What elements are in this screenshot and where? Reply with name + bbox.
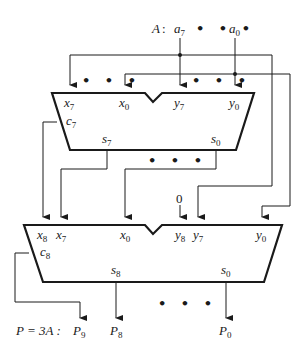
junction-a7 xyxy=(178,53,182,57)
bottom-port-s8: s8 xyxy=(111,263,121,279)
bottom-port-s0: s0 xyxy=(221,263,231,279)
top-port-c7: c7 xyxy=(66,114,76,130)
bottom-port-x8: x8 xyxy=(37,228,47,244)
circuit-wiring xyxy=(0,0,306,356)
wire-s7 xyxy=(61,150,107,217)
top-port-s7: s7 xyxy=(102,132,112,148)
input-ellipsis: • • • xyxy=(196,22,255,35)
top-port-x0: x0 xyxy=(119,96,129,112)
bottom-out-ellipsis: • • • xyxy=(158,297,217,310)
bottom-port-y0: y0 xyxy=(256,228,266,244)
output-bit-p0: P0 xyxy=(219,324,231,340)
bottom-port-x0: x0 xyxy=(120,228,130,244)
wire-a0 xyxy=(125,38,290,217)
y8-zero-constant: 0 xyxy=(176,192,183,205)
wire-c7 xyxy=(43,122,57,217)
wire-c8 xyxy=(15,253,80,318)
input-bit-a0: a0 xyxy=(229,22,240,38)
top-port-s0: s0 xyxy=(211,132,221,148)
output-bit-p9: P9 xyxy=(73,324,85,340)
adder-top xyxy=(52,93,254,150)
top-s-ellipsis: • • • xyxy=(148,154,207,167)
bottom-port-c8: c8 xyxy=(40,245,50,261)
bottom-port-x7: x7 xyxy=(56,228,66,244)
bottom-port-y7: y7 xyxy=(193,228,203,244)
input-label: A: xyxy=(152,22,166,35)
bottom-port-y8: y8 xyxy=(175,228,185,244)
output-expression: P = 3A : xyxy=(16,324,61,337)
top-port-y0: y0 xyxy=(229,96,239,112)
top-y-ellipsis: • • • xyxy=(192,74,251,87)
top-port-y7: y7 xyxy=(174,96,184,112)
wire-a7 xyxy=(70,38,272,217)
output-bit-p8: P8 xyxy=(110,324,122,340)
input-bit-a7: a7 xyxy=(174,22,185,38)
top-port-x7: x7 xyxy=(64,96,74,112)
top-x-ellipsis: • • • xyxy=(82,74,141,87)
